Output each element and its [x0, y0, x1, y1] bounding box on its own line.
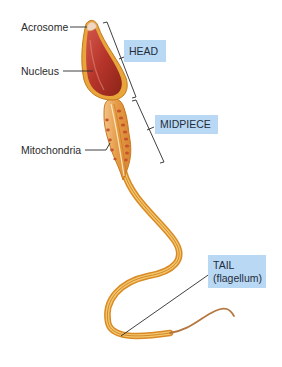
acrosome-label: Acrosome: [21, 21, 68, 33]
head-region-text: HEAD: [129, 45, 158, 58]
tail-flagellum: [107, 172, 234, 336]
midpiece-region-label: MIDPIECE: [155, 115, 218, 134]
head-region-label: HEAD: [124, 40, 166, 62]
head: [82, 20, 127, 100]
sperm-diagram: Acrosome Nucleus Mitochondria HEAD MIDPI…: [0, 0, 282, 367]
midpiece-region-text: MIDPIECE: [160, 118, 211, 131]
flagellum-region-text: (flagellum): [213, 272, 262, 285]
nucleus-label: Nucleus: [21, 65, 59, 77]
mitochondria-label: Mitochondria: [21, 144, 81, 156]
midpiece: [104, 98, 131, 180]
mitochondria-leader: [85, 143, 110, 150]
tail-region-text: TAIL: [213, 259, 234, 272]
tail-region-label: TAIL (flagellum): [208, 255, 266, 288]
